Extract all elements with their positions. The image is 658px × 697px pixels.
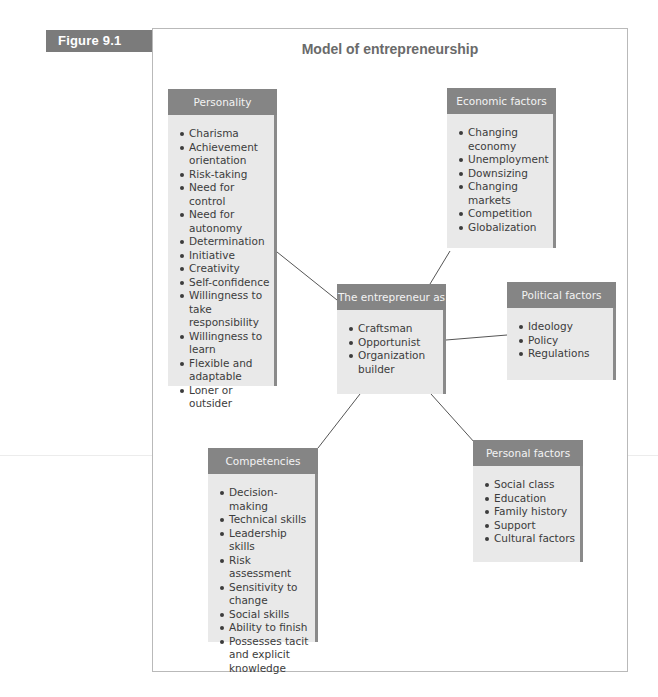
list-item: Organization builder (349, 349, 439, 376)
list-item: Loner or outsider (180, 384, 270, 411)
box-personal-factors: Personal factors Social class Education … (473, 440, 583, 562)
list-item: Policy (519, 334, 609, 348)
list-item: Ideology (519, 320, 609, 334)
list-item: Social class (485, 478, 576, 492)
list-item: Changing economy (459, 126, 549, 153)
box-economic-factors: Economic factors Changing economy Unempl… (447, 88, 556, 248)
list-item: Self-confidence (180, 276, 270, 290)
box-header: Personal factors (473, 440, 583, 466)
list-item: Regulations (519, 347, 609, 361)
list-item: Need for control (180, 181, 270, 208)
list-item: Charisma (180, 127, 270, 141)
connector-competencies (318, 394, 360, 448)
box-header: Political factors (507, 282, 616, 308)
connector-political (446, 335, 507, 340)
list-item: Leadership skills (220, 527, 311, 554)
list-item: Downsizing (459, 167, 549, 181)
list-item: Opportunist (349, 336, 439, 350)
connector-economic (430, 251, 450, 284)
item-list: Decision-making Technical skills Leaders… (208, 474, 315, 683)
item-list: Craftsman Opportunist Organization build… (337, 310, 443, 384)
list-item: Family history (485, 505, 576, 519)
box-competencies: Competencies Decision-making Technical s… (208, 448, 318, 642)
list-item: Willingness to learn (180, 330, 270, 357)
list-item: Sensitivity to change (220, 581, 311, 608)
list-item: Need for autonomy (180, 208, 270, 235)
connector-personal (431, 394, 475, 443)
list-item: Creativity (180, 262, 270, 276)
list-item: Willingness to take responsibility (180, 289, 270, 330)
list-item: Risk-taking (180, 168, 270, 182)
list-item: Cultural factors (485, 532, 576, 546)
item-list: Changing economy Unemployment Downsizing… (447, 114, 553, 242)
list-item: Education (485, 492, 576, 506)
list-item: Changing markets (459, 180, 549, 207)
list-item: Competition (459, 207, 549, 221)
connector-personality (277, 252, 337, 300)
box-political-factors: Political factors Ideology Policy Regula… (507, 282, 616, 380)
list-item: Determination (180, 235, 270, 249)
list-item: Ability to finish (220, 621, 311, 635)
item-list: Social class Education Family history Su… (473, 466, 580, 554)
list-item: Possesses tacit and explicit knowledge (220, 635, 311, 676)
list-item: Globalization (459, 221, 549, 235)
list-item: Support (485, 519, 576, 533)
box-header: Personality (168, 89, 277, 115)
box-header: Economic factors (447, 88, 556, 114)
list-item: Initiative (180, 249, 270, 263)
list-item: Decision-making (220, 486, 311, 513)
box-entrepreneur: The entrepreneur as Craftsman Opportunis… (337, 284, 446, 394)
list-item: Social skills (220, 608, 311, 622)
box-personality: Personality Charisma Achievement orienta… (168, 89, 277, 386)
list-item: Unemployment (459, 153, 549, 167)
box-header: The entrepreneur as (337, 284, 446, 310)
list-item: Risk assessment (220, 554, 311, 581)
list-item: Technical skills (220, 513, 311, 527)
item-list: Ideology Policy Regulations (507, 308, 613, 369)
item-list: Charisma Achievement orientation Risk-ta… (168, 115, 274, 419)
list-item: Flexible and adaptable (180, 357, 270, 384)
list-item: Achievement orientation (180, 141, 270, 168)
box-header: Competencies (208, 448, 318, 474)
list-item: Craftsman (349, 322, 439, 336)
